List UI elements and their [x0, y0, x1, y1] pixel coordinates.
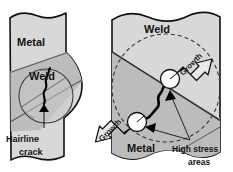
figure-canvas: Metal Weld Hairline crack	[0, 0, 233, 172]
left-callout-line2: crack	[19, 147, 44, 157]
left-panel: Metal Weld Hairline crack	[0, 13, 92, 160]
high-stress-label-line2: areas	[188, 157, 210, 167]
left-label-weld: Weld	[29, 70, 55, 82]
high-stress-label-line1: High stress	[172, 144, 219, 154]
left-label-metal: Metal	[17, 36, 45, 48]
right-label-metal: Metal	[127, 142, 155, 154]
right-panel: Growth Growth Weld Metal High stress are…	[96, 12, 233, 168]
left-callout-line1: Hairline	[6, 134, 39, 144]
right-label-weld: Weld	[144, 23, 170, 35]
weld-crack-growth-figure: Metal Weld Hairline crack	[0, 0, 233, 172]
